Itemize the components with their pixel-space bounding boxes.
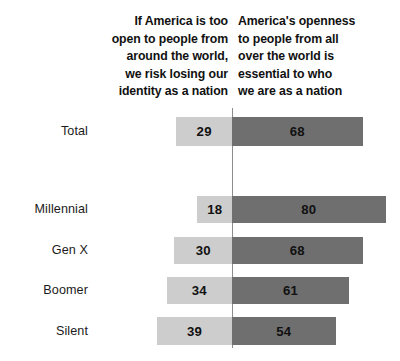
bar-segment-right: 68 <box>232 237 363 264</box>
bar-value-left: 30 <box>196 243 211 258</box>
bar-segment-left: 29 <box>176 117 232 146</box>
bar-value-left: 34 <box>192 283 207 298</box>
bar-segment-left: 34 <box>167 277 232 304</box>
row-label: Silent <box>0 324 88 338</box>
bar-value-right: 54 <box>276 324 291 339</box>
bar-segment-left: 30 <box>174 237 232 264</box>
bar-segment-right: 61 <box>232 277 349 304</box>
bar-segment-right: 54 <box>232 317 336 345</box>
bar-segment-right: 80 <box>232 196 386 223</box>
bar-value-left: 29 <box>197 124 212 139</box>
bar-segment-left: 39 <box>157 317 232 345</box>
bar-value-right: 80 <box>301 202 316 217</box>
bar-value-right: 68 <box>290 243 305 258</box>
row-label: Boomer <box>0 283 88 297</box>
bar-value-left: 39 <box>187 324 202 339</box>
row-label: Millennial <box>0 202 88 216</box>
header-right-statement: America's openness to people from all ov… <box>238 13 390 101</box>
bar-value-left: 18 <box>207 202 222 217</box>
header-left-statement: If America is too open to people from ar… <box>78 13 228 101</box>
row-label: Total <box>0 124 88 138</box>
bar-segment-right: 68 <box>232 117 363 146</box>
bar-value-right: 61 <box>283 283 298 298</box>
row-label: Gen X <box>0 243 88 257</box>
bar-segment-left: 18 <box>197 196 232 223</box>
bar-value-right: 68 <box>290 124 305 139</box>
diverging-bar-chart: If America is too open to people from ar… <box>0 0 400 361</box>
